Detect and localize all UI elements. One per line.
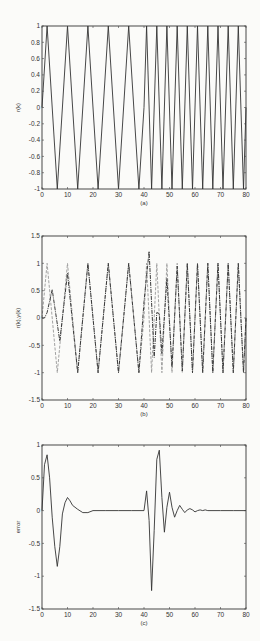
x-tick-label: 0	[40, 611, 44, 618]
chart-panel-a: 01020304050607080-1-0.8-0.6-0.4-0.200.20…	[15, 22, 250, 206]
y-tick-label: 0	[36, 104, 40, 111]
y-tick-label: -0.6	[29, 153, 41, 160]
x-tick-label: 0	[40, 191, 44, 198]
x-tick-label: 30	[115, 191, 123, 198]
y-tick-label: 0.8	[31, 39, 40, 46]
y-tick-label: -0.5	[29, 342, 41, 349]
y-tick-label: 1.5	[31, 232, 40, 239]
x-tick-label: 60	[191, 611, 199, 618]
x-tick-label: 70	[217, 402, 225, 409]
y-tick-label: -0.2	[29, 120, 41, 127]
y-tick-label: -1	[34, 185, 40, 192]
x-tick-label: 20	[89, 191, 97, 198]
x-tick-label: 0	[40, 402, 44, 409]
x-tick-label: 70	[217, 191, 225, 198]
y-tick-label: 0.6	[31, 55, 40, 62]
x-tick-label: 60	[191, 402, 199, 409]
x-tick-label: 60	[191, 191, 199, 198]
x-tick-label: 40	[140, 191, 148, 198]
series-line-r-k-	[42, 26, 246, 189]
y-tick-label: -0.4	[29, 136, 41, 143]
x-tick-label: 20	[89, 611, 97, 618]
x-axis-label: (b)	[140, 411, 147, 417]
y-tick-label: -0.8	[29, 169, 41, 176]
x-axis-label: (a)	[140, 200, 147, 206]
x-tick-label: 80	[242, 402, 250, 409]
chart-panel-c: 01020304050607080-1.5-1-0.500.51(c)error	[15, 441, 250, 626]
y-tick-label: -1.5	[29, 396, 41, 403]
x-tick-label: 50	[166, 402, 174, 409]
x-tick-label: 80	[242, 191, 250, 198]
y-tick-label: 1	[36, 260, 40, 267]
y-tick-label: 0.5	[31, 474, 40, 481]
y-tick-label: 0	[36, 507, 40, 514]
x-tick-label: 50	[166, 611, 174, 618]
y-tick-label: 0.2	[31, 87, 40, 94]
y-tick-label: -1	[34, 572, 40, 579]
plot-frame	[42, 445, 246, 609]
x-tick-label: 10	[64, 191, 72, 198]
x-tick-label: 30	[115, 402, 123, 409]
y-axis-label: r(k),y(k)	[15, 308, 21, 329]
y-tick-label: -1	[34, 369, 40, 376]
chart-panel-b: 01020304050607080-1.5-1-0.500.511.5(b)r(…	[15, 232, 250, 417]
x-tick-label: 10	[64, 611, 72, 618]
y-tick-label: 0	[36, 314, 40, 321]
y-tick-label: 1	[36, 22, 40, 29]
y-axis-label: r(k)	[15, 103, 21, 112]
x-tick-label: 40	[140, 611, 148, 618]
y-tick-label: -1.5	[29, 605, 41, 612]
y-tick-label: 0.5	[31, 287, 40, 294]
series-line-r-k-	[42, 263, 246, 372]
x-tick-label: 70	[217, 611, 225, 618]
y-axis-label: error	[15, 521, 21, 534]
series-line-error	[42, 450, 246, 590]
x-tick-label: 80	[242, 611, 250, 618]
x-tick-label: 20	[89, 402, 97, 409]
x-tick-label: 30	[115, 611, 123, 618]
y-tick-label: -0.5	[29, 540, 41, 547]
y-tick-label: 1	[36, 441, 40, 448]
y-tick-label: 0.4	[31, 71, 40, 78]
x-tick-label: 40	[140, 402, 148, 409]
x-axis-label: (c)	[141, 620, 148, 626]
x-tick-label: 50	[166, 191, 174, 198]
figure: 01020304050607080-1-0.8-0.6-0.4-0.200.20…	[0, 0, 260, 641]
x-tick-label: 10	[64, 402, 72, 409]
